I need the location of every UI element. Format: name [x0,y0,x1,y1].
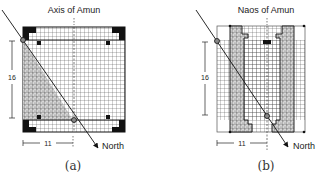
figure-b-naos-of-amun: Naos of Amun North 16 11 (b) [196,5,315,173]
figure-canvas: Axis of Amun North 16 11 (a) [0,0,323,179]
figure-b-title: Naos of Amun [238,5,295,15]
figure-b-grid-center [241,26,281,132]
figure-a-point-top [21,38,26,43]
figure-b-corner-dot [229,131,232,134]
figure-a-pillar [106,41,110,45]
figure-b-hdim-label: 11 [238,140,245,147]
figure-a-pillar [106,115,110,119]
figure-b-corner-dot [303,25,306,28]
figure-b-corner-dot [303,131,306,134]
figure-a-title: Axis of Amun [48,5,101,15]
figure-b-point-bottom [265,114,270,119]
figure-b-caption: (b) [257,159,274,173]
figure-b-point-top [215,39,220,44]
figure-b-corner-dot [229,25,232,28]
figure-a-caption: (a) [65,159,82,173]
figure-b-north-label: North [293,141,315,151]
figure-a-hdim-label: 11 [44,140,51,147]
figure-a-vdim-label: 16 [8,74,16,81]
figure-a-pillar [37,41,41,45]
figure-a-north-label: North [102,141,124,151]
figure-a-point-bottom [72,118,77,123]
figure-a-pillar [37,115,41,119]
figure-a-axis-of-amun: Axis of Amun North 16 11 (a) [2,5,125,173]
figure-b-vdim-label: 16 [201,74,209,81]
